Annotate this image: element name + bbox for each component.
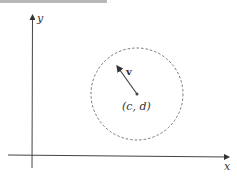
y-axis-label: y <box>36 12 44 25</box>
center-point <box>136 93 139 96</box>
vector-label: v <box>125 66 133 77</box>
y-axis <box>32 15 33 168</box>
diagram-canvas: x y v (c, d) <box>0 0 237 177</box>
x-axis-label: x <box>224 160 231 173</box>
center-point-label: (c, d) <box>122 100 151 113</box>
x-axis <box>8 155 229 157</box>
